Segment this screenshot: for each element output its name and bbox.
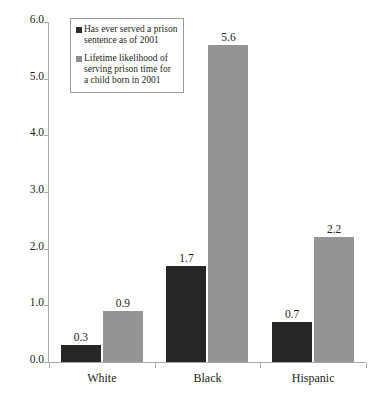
bar bbox=[166, 266, 206, 362]
bar bbox=[208, 45, 248, 362]
y-axis-tick-label: 5.0 bbox=[30, 71, 44, 83]
legend-swatch-icon bbox=[76, 27, 82, 33]
legend-entry: Lifetime likelihood ofserving prison tim… bbox=[76, 53, 178, 86]
bar-value-label: 0.7 bbox=[270, 308, 314, 320]
y-axis-tick-label: 4.0 bbox=[30, 127, 44, 139]
x-axis-tick-mark bbox=[366, 363, 367, 368]
y-axis-tick-label: 2.0 bbox=[30, 241, 44, 253]
legend-label-line: serving prison time for bbox=[84, 64, 171, 75]
bar-value-label: 5.6 bbox=[206, 31, 250, 43]
bar-value-label: 0.9 bbox=[101, 297, 145, 309]
legend: Has ever served a prisonsentence as of 2… bbox=[70, 18, 184, 93]
legend-label-line: sentence as of 2001 bbox=[84, 35, 177, 46]
bar bbox=[314, 237, 354, 362]
x-axis-category-label: Black bbox=[153, 371, 263, 385]
x-axis-line bbox=[48, 362, 366, 363]
legend-swatch-icon bbox=[76, 56, 82, 62]
legend-entry: Has ever served a prisonsentence as of 2… bbox=[76, 24, 178, 46]
bar-value-label: 2.2 bbox=[312, 223, 356, 235]
y-axis-tick-label: 3.0 bbox=[30, 184, 44, 196]
bar bbox=[272, 322, 312, 362]
bar-value-label: 1.7 bbox=[164, 252, 208, 264]
x-axis-tick-mark bbox=[49, 363, 50, 368]
bar bbox=[103, 311, 143, 362]
bar-group: 0.72.2 bbox=[260, 22, 366, 362]
legend-label: Has ever served a prisonsentence as of 2… bbox=[84, 24, 177, 46]
legend-label: Lifetime likelihood ofserving prison tim… bbox=[84, 53, 171, 86]
y-axis-tick-label: 6.0 bbox=[30, 14, 44, 26]
bar-chart: 6.05.04.03.02.01.00.0 0.30.91.75.60.72.2… bbox=[0, 0, 379, 399]
legend-label-line: Lifetime likelihood of bbox=[84, 53, 171, 64]
bar-value-label: 0.3 bbox=[59, 331, 103, 343]
x-axis-category-label: White bbox=[47, 371, 157, 385]
legend-label-line: a child born in 2001 bbox=[84, 75, 171, 86]
x-axis-tick-mark bbox=[155, 363, 156, 368]
x-axis-category-label: Hispanic bbox=[258, 371, 368, 385]
x-axis-tick-mark bbox=[260, 363, 261, 368]
legend-label-line: Has ever served a prison bbox=[84, 24, 177, 35]
y-axis-tick-label: 0.0 bbox=[30, 354, 44, 366]
bar bbox=[61, 345, 101, 362]
y-axis-tick-label: 1.0 bbox=[30, 297, 44, 309]
